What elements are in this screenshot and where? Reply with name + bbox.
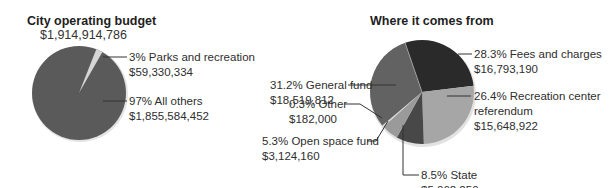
- label-fees-charges: 28.3% Fees and charges $16,793,190: [474, 47, 602, 77]
- label-general-fund: 31.2% General fund $18,519,812: [270, 78, 372, 108]
- left-pie: [32, 46, 128, 142]
- right-pie: [370, 40, 476, 147]
- label-all-others: 97% All others $1,855,584,452: [129, 94, 209, 124]
- left-chart-total: $1,914,914,786: [40, 28, 127, 42]
- slice-recreation-referendum: [422, 86, 474, 144]
- label-open-space: 5.3% Open space fund $3,124,160: [262, 134, 379, 164]
- label-state: 8.5% State $5,062,250: [421, 168, 479, 188]
- label-parks-recreation: 3% Parks and recreation $59,330,334: [129, 50, 255, 80]
- label-recreation-referendum: 26.4% Recreation center referendum $15,6…: [474, 89, 601, 134]
- right-chart-title: Where it comes from: [370, 14, 494, 28]
- left-chart-title: City operating budget: [27, 14, 156, 28]
